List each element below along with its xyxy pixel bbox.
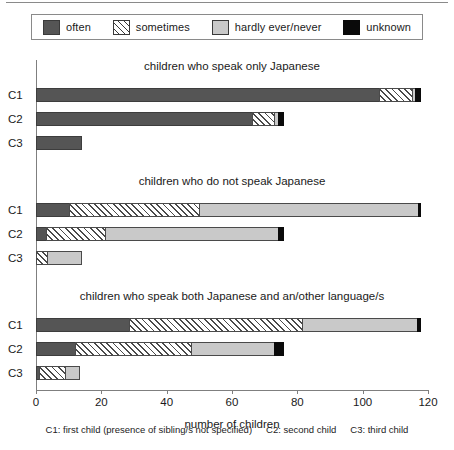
legend-swatch-sometimes [113,20,130,35]
row-label-c3: C3 [8,137,34,149]
chart-footnote: C1: first child (presence of sibling/s n… [0,424,454,435]
bar-segment-hardly[interactable] [191,342,274,356]
stacked-bar[interactable] [36,366,80,380]
bar-segment-sometimes[interactable] [75,342,191,356]
bar-segment-sometimes[interactable] [379,88,412,102]
row-label-c3: C3 [8,252,34,264]
bar-segment-often[interactable] [36,88,379,102]
chart-legend: often sometimes hardly ever/never unknow… [31,14,423,40]
x-tick-label: 20 [81,396,121,408]
row-label-c2: C2 [8,113,34,125]
bar-segment-sometimes[interactable] [69,203,200,217]
x-tick-mark [363,390,364,394]
row-label-c3: C3 [8,367,34,379]
stacked-bar[interactable] [36,88,421,102]
y-axis-line [36,60,37,390]
stacked-bar[interactable] [36,227,284,241]
bar-segment-often[interactable] [36,112,252,126]
bar-segment-often[interactable] [36,227,46,241]
row-label-c2: C2 [8,228,34,240]
stacked-bar[interactable] [36,251,82,265]
bar-segment-unknown[interactable] [418,203,421,217]
x-tick-mark [167,390,168,394]
row-label-c2: C2 [8,343,34,355]
bar-segment-often[interactable] [36,203,69,217]
bar-segment-often[interactable] [36,318,129,332]
chart-plot-area: children who speak only JapaneseC1C2C3ch… [0,48,454,398]
legend-item-unknown: unknown [343,20,411,35]
bar-segment-hardly[interactable] [199,203,418,217]
legend-label-unknown: unknown [366,21,411,33]
legend-item-sometimes: sometimes [113,20,190,35]
top-divider [6,2,448,3]
bar-segment-sometimes[interactable] [36,251,47,265]
x-tick-mark [428,390,429,394]
bar-segment-sometimes[interactable] [46,227,105,241]
legend-swatch-often [43,20,60,35]
stacked-bar[interactable] [36,112,284,126]
legend-item-hardly: hardly ever/never [212,20,322,35]
legend-swatch-unknown [343,20,360,35]
x-tick-mark [232,390,233,394]
x-tick-mark [36,390,37,394]
bar-segment-unknown[interactable] [274,342,284,356]
bar-segment-sometimes[interactable] [39,366,65,380]
bar-segment-sometimes[interactable] [129,318,302,332]
x-tick-label: 0 [16,396,56,408]
bar-segment-sometimes[interactable] [252,112,275,126]
row-label-c1: C1 [8,319,34,331]
stacked-bar[interactable] [36,318,421,332]
x-tick-mark [101,390,102,394]
bar-segment-hardly[interactable] [65,366,80,380]
x-tick-label: 80 [277,396,317,408]
bar-segment-hardly[interactable] [302,318,416,332]
bar-segment-often[interactable] [36,342,75,356]
legend-label-hardly: hardly ever/never [235,21,322,33]
legend-label-often: often [66,21,91,33]
row-label-c1: C1 [8,89,34,101]
group-title: children who speak both Japanese and an/… [36,290,428,302]
x-tick-label: 100 [343,396,383,408]
footnote-c2: C2: second child [266,424,336,435]
bar-segment-hardly[interactable] [47,251,81,265]
group-title: children who do not speak Japanese [36,175,428,187]
bar-segment-unknown[interactable] [278,227,285,241]
stacked-bar[interactable] [36,136,82,150]
legend-label-sometimes: sometimes [136,21,190,33]
footnote-c1: C1: first child (presence of sibling/s n… [46,424,252,435]
group-title: children who speak only Japanese [36,60,428,72]
x-tick-label: 40 [147,396,187,408]
bar-segment-hardly[interactable] [105,227,278,241]
bar-segment-unknown[interactable] [278,112,285,126]
x-tick-label: 120 [408,396,448,408]
legend-item-often: often [43,20,91,35]
bar-segment-often[interactable] [36,136,82,150]
row-label-c1: C1 [8,204,34,216]
legend-swatch-hardly [212,20,229,35]
x-tick-mark [297,390,298,394]
stacked-bar[interactable] [36,342,284,356]
bar-segment-unknown[interactable] [417,318,422,332]
x-tick-label: 60 [212,396,252,408]
footnote-c3: C3: third child [350,424,408,435]
stacked-bar[interactable] [36,203,421,217]
bar-segment-unknown[interactable] [415,88,422,102]
